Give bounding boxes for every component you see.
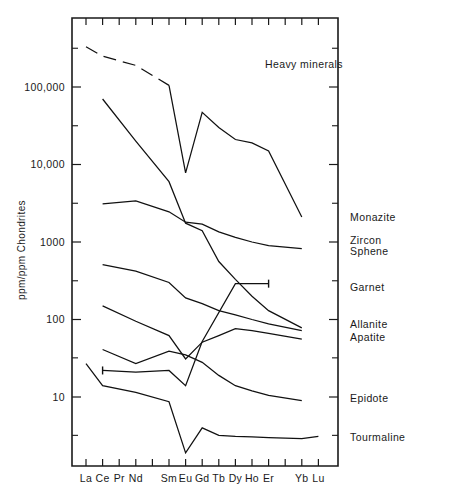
x-axis-ticks <box>86 459 318 466</box>
y-tick-label: 10 <box>53 391 65 403</box>
y-axis-title: ppm/ppm Chondrites <box>16 200 27 300</box>
series-label-epidote: Epidote <box>350 392 388 404</box>
series-label-sphene: Sphene <box>350 245 389 257</box>
series-line-garnet <box>103 284 269 386</box>
series-label-monazite: Monazite <box>350 211 396 223</box>
x-tick-label: Nd <box>129 472 143 484</box>
x-tick-label: Ce <box>96 472 110 484</box>
x-tick-label: Yb <box>295 472 308 484</box>
x-tick-label: Er <box>263 472 274 484</box>
x-tick-label: Lu <box>312 472 324 484</box>
x-tick-label: Gd <box>195 472 210 484</box>
chart-svg: 100,00010,000100010010 LaCePrNdSmEuGdTbD… <box>0 0 450 497</box>
y-tick-label: 1000 <box>40 236 65 248</box>
y-tick-label: 100 <box>46 313 65 325</box>
y-axis-tick-labels: 100,00010,000100010010 <box>24 81 65 403</box>
series-line-zircon <box>103 99 302 328</box>
x-tick-label: Sm <box>161 472 177 484</box>
series-line-tourmaline <box>86 364 318 453</box>
top-axis-ticks <box>86 18 318 25</box>
series-line-sphene <box>103 201 302 249</box>
series-label-allanite: Allanite <box>350 318 388 330</box>
series-line-allanite <box>103 265 302 331</box>
heavy-minerals-ree-chart: 100,00010,000100010010 LaCePrNdSmEuGdTbD… <box>0 0 450 497</box>
series-line-epidote <box>103 350 302 401</box>
series-labels-group: MonaziteZirconSpheneGarnetAllaniteApatit… <box>350 211 405 443</box>
right-axis-ticks <box>329 48 338 435</box>
x-tick-label: Eu <box>179 472 192 484</box>
x-tick-label: Pr <box>114 472 125 484</box>
series-line-monazite <box>169 85 302 217</box>
x-tick-label: Tb <box>212 472 225 484</box>
series-line-monazite-dashed <box>86 47 169 86</box>
plot-frame <box>72 18 338 466</box>
data-series-group <box>86 47 318 453</box>
series-label-garnet: Garnet <box>350 281 385 293</box>
axis-frame <box>72 18 338 466</box>
chart-annotation-heavy-minerals: Heavy minerals <box>265 58 343 70</box>
x-axis-tick-labels: LaCePrNdSmEuGdTbDyHoErYbLu <box>80 472 325 484</box>
x-tick-label: La <box>80 472 92 484</box>
series-line-apatite <box>103 306 302 359</box>
series-label-tourmaline: Tourmaline <box>350 431 405 443</box>
y-tick-label: 100,000 <box>24 81 65 93</box>
y-axis-ticks <box>72 48 81 435</box>
x-tick-label: Dy <box>229 472 243 484</box>
y-tick-label: 10,000 <box>30 158 65 170</box>
series-label-apatite: Apatite <box>350 331 386 343</box>
x-tick-label: Ho <box>245 472 259 484</box>
